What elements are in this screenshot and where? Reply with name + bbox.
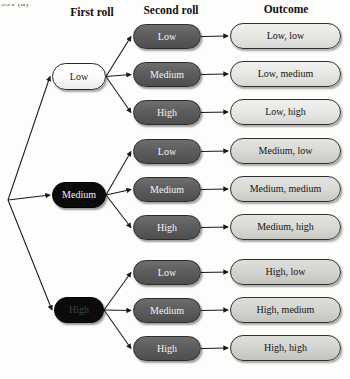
node-first-high[interactable]: High — [54, 297, 104, 323]
node-outcome-low-high[interactable]: Low, high — [230, 99, 341, 125]
edge-second-low-3-to-outcome-high-low — [201, 272, 228, 273]
node-second-medium-3-label: Medium — [150, 306, 184, 316]
edge-second-medium-3-to-outcome-high-medium — [201, 310, 228, 311]
node-second-low-2-label: Low — [158, 147, 176, 157]
node-second-low-1[interactable]: Low — [133, 24, 201, 49]
edge-first-high-to-second-medium-3 — [104, 310, 131, 311]
node-outcome-low-low[interactable]: Low, low — [230, 23, 341, 49]
column-header-second-roll: Second roll — [132, 4, 210, 16]
column-header-first-roll: First roll — [52, 6, 132, 18]
node-second-medium-3[interactable]: Medium — [133, 298, 201, 323]
node-second-low-3[interactable]: Low — [133, 260, 201, 285]
edge-second-low-1-to-outcome-low-low — [201, 36, 228, 37]
column-header-outcome: Outcome — [238, 3, 334, 15]
edge-second-medium-2-to-outcome-medium-medium — [201, 189, 228, 190]
node-outcome-high-low[interactable]: High, low — [230, 259, 341, 285]
node-first-high-label: High — [69, 305, 89, 315]
node-second-high-1[interactable]: High — [133, 100, 201, 125]
node-outcome-high-high-label: High, high — [264, 343, 307, 353]
edge-first-low-to-second-high-1 — [106, 77, 131, 113]
node-outcome-medium-high-label: Medium, high — [257, 222, 314, 232]
node-outcome-low-low-label: Low, low — [267, 31, 305, 41]
node-second-low-2[interactable]: Low — [133, 139, 201, 164]
edge-first-medium-to-second-high-2 — [106, 195, 131, 228]
node-second-low-3-label: Low — [158, 268, 176, 278]
node-outcome-low-medium-label: Low, medium — [258, 69, 313, 79]
node-first-medium[interactable]: Medium — [52, 182, 106, 208]
node-outcome-medium-low-label: Medium, low — [259, 146, 313, 156]
node-outcome-medium-high[interactable]: Medium, high — [230, 214, 341, 240]
edge-second-medium-1-to-outcome-low-medium — [201, 74, 228, 75]
edge-root-to-first-low — [8, 77, 50, 201]
node-second-low-1-label: Low — [158, 32, 176, 42]
node-outcome-high-medium-label: High, medium — [257, 305, 315, 315]
page-corner-code: 591 (a) — [1, 0, 29, 8]
edge-second-high-2-to-outcome-medium-high — [201, 227, 228, 228]
tree-diagram-page: 591 (a) First rollSecond rollOutcome Low… — [0, 0, 350, 379]
edge-first-medium-to-second-low-2 — [106, 152, 131, 196]
node-second-high-3[interactable]: High — [133, 336, 201, 361]
node-outcome-high-low-label: High, low — [266, 267, 306, 277]
node-outcome-medium-medium-label: Medium, medium — [250, 184, 322, 194]
node-outcome-low-high-label: Low, high — [265, 107, 305, 117]
node-second-high-2-label: High — [157, 223, 177, 233]
node-outcome-high-high[interactable]: High, high — [230, 335, 341, 361]
node-outcome-medium-low[interactable]: Medium, low — [230, 138, 341, 164]
edge-second-high-3-to-outcome-high-high — [201, 348, 228, 349]
node-second-high-3-label: High — [157, 344, 177, 354]
edge-first-low-to-second-medium-1 — [106, 75, 131, 77]
node-second-medium-1[interactable]: Medium — [133, 62, 201, 87]
edge-first-high-to-second-low-3 — [104, 273, 131, 311]
node-outcome-medium-medium[interactable]: Medium, medium — [230, 176, 341, 202]
edge-first-medium-to-second-medium-2 — [106, 190, 131, 196]
node-first-low[interactable]: Low — [52, 63, 106, 90]
edge-root-to-first-high — [8, 200, 52, 310]
node-second-high-1-label: High — [157, 108, 177, 118]
node-first-low-label: Low — [70, 72, 88, 82]
edge-second-high-1-to-outcome-low-high — [201, 112, 228, 113]
node-outcome-low-medium[interactable]: Low, medium — [230, 61, 341, 87]
node-second-medium-1-label: Medium — [150, 70, 184, 80]
edge-root-to-first-medium — [8, 195, 50, 200]
node-first-medium-label: Medium — [62, 190, 96, 200]
node-second-medium-2[interactable]: Medium — [133, 177, 201, 202]
edge-first-high-to-second-high-3 — [104, 310, 131, 349]
node-second-medium-2-label: Medium — [150, 185, 184, 195]
edge-first-low-to-second-low-1 — [106, 37, 131, 77]
node-second-high-2[interactable]: High — [133, 215, 201, 240]
edge-second-low-2-to-outcome-medium-low — [201, 151, 228, 152]
node-outcome-high-medium[interactable]: High, medium — [230, 297, 341, 323]
